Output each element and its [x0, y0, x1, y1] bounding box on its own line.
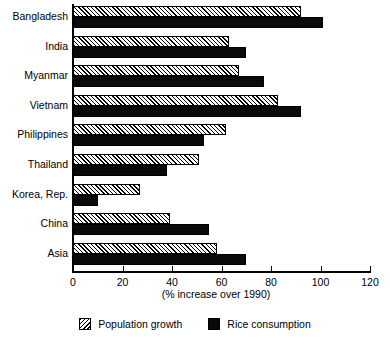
bar-group: [73, 34, 370, 64]
bar-population-growth: [73, 124, 226, 135]
bar-group: [73, 4, 370, 34]
bar-group: [73, 182, 370, 212]
legend-item-rice-consumption: Rice consumption: [208, 318, 310, 330]
bar-groups: [73, 4, 370, 271]
bar-population-growth: [73, 95, 278, 106]
x-tick-label: 120: [361, 276, 379, 288]
chart-legend: Population growth Rice consumption: [0, 318, 390, 330]
x-tick-mark: [370, 266, 371, 271]
bar-population-growth: [73, 36, 229, 47]
legend-item-population-growth: Population growth: [79, 318, 182, 330]
bar-rice-consumption: [73, 135, 204, 146]
x-tick-label: 40: [166, 276, 178, 288]
x-tick-mark: [271, 266, 272, 271]
bar-group: [73, 93, 370, 123]
bar-rice-consumption: [73, 76, 264, 87]
x-tick-mark: [123, 266, 124, 271]
bar-population-growth: [73, 65, 239, 76]
bar-chart: BangladeshIndiaMyanmarVietnamPhilippines…: [0, 0, 390, 345]
plot-area: [73, 4, 370, 271]
bar-rice-consumption: [73, 195, 98, 206]
x-tick-label: 60: [216, 276, 228, 288]
bar-rice-consumption: [73, 47, 246, 58]
y-axis-label: Myanmar: [0, 70, 68, 81]
bar-population-growth: [73, 243, 217, 254]
y-axis-label: India: [0, 41, 68, 52]
bar-population-growth: [73, 184, 140, 195]
x-tick-mark: [172, 266, 173, 271]
bar-rice-consumption: [73, 165, 167, 176]
y-axis-label: Bangladesh: [0, 11, 68, 22]
bar-population-growth: [73, 213, 170, 224]
legend-label-population-growth: Population growth: [98, 318, 182, 330]
legend-label-rice-consumption: Rice consumption: [227, 318, 310, 330]
bar-rice-consumption: [73, 254, 246, 265]
x-axis-title: (% increase over 1990): [0, 288, 390, 301]
y-axis-label: Asia: [0, 248, 68, 259]
y-axis-label: Philippines: [0, 129, 68, 140]
x-tick-label: 0: [70, 276, 76, 288]
bar-rice-consumption: [73, 106, 301, 117]
x-axis-title-text: (% increase over 1990): [120, 288, 271, 301]
bar-group: [73, 152, 370, 182]
solid-black-swatch-icon: [208, 318, 220, 330]
bar-group: [73, 211, 370, 241]
y-axis-label: China: [0, 218, 68, 229]
y-axis-label: Korea, Rep.: [0, 189, 68, 200]
x-tick-mark: [222, 266, 223, 271]
x-tick-label: 20: [117, 276, 129, 288]
x-tick-label: 80: [265, 276, 277, 288]
y-axis-label: Thailand: [0, 159, 68, 170]
bar-population-growth: [73, 154, 199, 165]
y-axis-label: Vietnam: [0, 100, 68, 111]
bar-rice-consumption: [73, 17, 323, 28]
bar-group: [73, 63, 370, 93]
x-tick-mark: [321, 266, 322, 271]
x-tick-label: 100: [312, 276, 330, 288]
hatched-swatch-icon: [79, 318, 91, 330]
bar-group: [73, 122, 370, 152]
y-axis-category-labels: BangladeshIndiaMyanmarVietnamPhilippines…: [0, 4, 68, 271]
bar-population-growth: [73, 6, 301, 17]
bar-rice-consumption: [73, 224, 209, 235]
